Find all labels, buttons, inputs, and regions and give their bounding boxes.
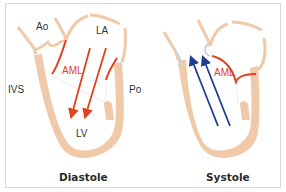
label-po: Po [129, 84, 142, 95]
heart-diagram: Ao LA AML IVS Po LV Diastole AML Systole [0, 0, 286, 192]
systole-chordae [236, 84, 238, 104]
systole-title: Systole [206, 171, 250, 183]
systole-aortic-wall-right [198, 20, 210, 46]
label-lv: LV [76, 128, 88, 139]
label-aml-systole: AML [214, 67, 235, 78]
label-la: LA [96, 25, 109, 36]
diastole-aortic-sinus [34, 40, 66, 50]
label-ao: Ao [36, 21, 49, 32]
diastole-atrium-wall [66, 15, 126, 62]
diastole-flow-arrow-2 [86, 48, 106, 114]
diastole-flow-arrow-1 [72, 48, 90, 114]
diastole-panel: Ao LA AML IVS Po LV Diastole [8, 15, 142, 183]
label-ivs: IVS [8, 84, 24, 95]
diastole-papillary [104, 101, 114, 120]
systole-aortic-wall-left [164, 32, 178, 60]
systole-atrium-wall [210, 22, 265, 70]
diastole-aortic-wall-left [18, 27, 36, 54]
diastole-title: Diastole [59, 171, 108, 183]
diastole-aortic-wall-right [55, 18, 66, 40]
systole-panel: AML Systole [164, 20, 265, 183]
label-aml-diastole: AML [62, 65, 83, 76]
systole-papillary [240, 101, 250, 120]
